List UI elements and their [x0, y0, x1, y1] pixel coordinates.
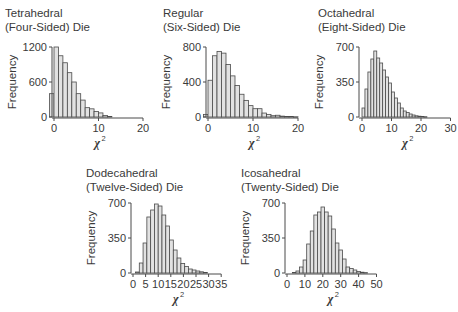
histogram-bar — [406, 113, 409, 118]
chart-title: Icosahedral(Twenty-Sided) Die — [241, 166, 339, 194]
histogram-bar — [154, 204, 158, 273]
y-axis-label: Frequency — [85, 211, 97, 266]
x-axis-label-superscript: 2 — [256, 134, 260, 143]
chart-octahedral: 0350700Frequency0102030χ2 — [313, 41, 457, 150]
histogram-bar — [158, 206, 162, 273]
histogram-bars — [204, 51, 299, 117]
chart-title: Octahedral(Eight-Sided) Die — [318, 6, 406, 34]
x-axis-label: χ — [326, 292, 334, 306]
histogram-bar — [67, 73, 71, 117]
histogram-bar — [307, 244, 311, 273]
histogram-bar — [357, 272, 361, 274]
chart-title-line: Tetrahedral — [5, 6, 90, 20]
x-axis: 0102030χ2 — [359, 118, 457, 150]
histogram-bar — [267, 114, 272, 117]
chart-tetrahedral: 06001200Frequency01020χ2 — [6, 41, 149, 150]
chart-title: Regular(Six-Sided) Die — [163, 6, 240, 34]
x-axis-label: χ — [400, 136, 408, 150]
histogram-bar — [170, 240, 174, 273]
histogram-bar — [249, 106, 254, 117]
x-axis-label-superscript: 2 — [409, 134, 413, 143]
histogram-bar — [173, 250, 177, 273]
y-tick-label: 400 — [183, 76, 201, 88]
y-tick-label: 1200 — [23, 41, 47, 53]
y-axis: 0350700Frequency — [313, 41, 359, 123]
histogram-bar — [360, 272, 364, 273]
y-tick-label: 600 — [29, 76, 47, 88]
histogram-bar — [386, 77, 389, 117]
histogram-bar — [107, 116, 111, 117]
histogram-bars — [292, 207, 367, 273]
histogram-bar — [72, 82, 76, 117]
histogram-bars — [362, 51, 427, 117]
y-axis-label: Frequency — [313, 55, 325, 110]
histogram-bar — [222, 53, 227, 117]
x-tick-label: 30 — [335, 278, 347, 290]
x-tick-label: 30 — [444, 122, 456, 134]
histogram-bar — [139, 263, 143, 273]
y-tick-label: 350 — [108, 232, 126, 244]
x-tick-label: 20 — [415, 122, 427, 134]
y-axis-label: Frequency — [160, 55, 172, 110]
histogram-bar — [196, 271, 200, 273]
histogram-bar — [364, 273, 368, 274]
histogram-bar — [294, 117, 299, 118]
histogram-bar — [314, 215, 318, 273]
histogram-bar — [339, 250, 343, 273]
y-tick-label: 350 — [262, 232, 280, 244]
histogram-bar — [303, 260, 307, 273]
x-axis-label: χ — [171, 292, 179, 306]
x-tick-label: 0 — [51, 122, 57, 134]
histogram-bar — [177, 258, 181, 273]
x-tick-label: 10 — [385, 122, 397, 134]
histogram-bar — [253, 109, 258, 117]
y-axis-label: Frequency — [6, 55, 18, 110]
chart-title-line: (Eight-Sided) Die — [318, 20, 406, 34]
histogram-bar — [217, 51, 222, 117]
histogram-bar — [54, 47, 58, 117]
y-axis-label: Frequency — [239, 211, 251, 266]
histogram-bar — [235, 86, 240, 118]
y-tick-label: 700 — [336, 41, 354, 53]
histogram-bar — [389, 83, 392, 117]
x-axis: 05101520253035χ2 — [130, 274, 227, 306]
x-axis-label: χ — [93, 136, 101, 150]
histogram-bar — [94, 111, 98, 117]
x-axis-label-superscript: 2 — [335, 290, 339, 299]
histogram-bar — [185, 267, 189, 274]
histogram-bar — [204, 272, 208, 273]
histogram-bar — [192, 270, 196, 273]
y-tick-label: 700 — [108, 197, 126, 209]
chart-title-line: (Four-Sided) Die — [5, 20, 90, 34]
histogram-bar — [328, 216, 332, 273]
histogram-bar — [240, 94, 245, 117]
histogram-bar — [151, 210, 155, 273]
y-tick-label: 0 — [195, 111, 201, 123]
histogram-bar — [143, 243, 147, 273]
histogram-bar — [412, 115, 415, 117]
chart-dodecahedral: 0350700Frequency05101520253035χ2 — [85, 197, 227, 306]
x-axis: 01020χ2 — [51, 118, 149, 150]
chart-title-line: Octahedral — [318, 6, 406, 20]
y-tick-label: 0 — [120, 267, 126, 279]
histogram-bar — [226, 65, 231, 118]
histogram-bar — [63, 63, 67, 117]
chart-title-line: (Twenty-Sided) Die — [241, 180, 339, 194]
histogram-bar — [200, 272, 204, 273]
histogram-bar — [76, 94, 80, 117]
x-tick-label: 0 — [284, 278, 290, 290]
x-tick-label: 35 — [215, 278, 227, 290]
x-axis-label-superscript: 2 — [102, 134, 106, 143]
histogram-bar — [85, 108, 89, 117]
x-tick-label: 15 — [165, 278, 177, 290]
histogram-bar — [81, 100, 85, 117]
histogram-bar — [244, 100, 249, 117]
histogram-bar — [296, 271, 300, 273]
x-axis-label-superscript: 2 — [180, 290, 184, 299]
histogram-bar — [335, 243, 339, 273]
histogram-bar — [162, 215, 166, 273]
x-tick-label: 20 — [292, 122, 304, 134]
histogram-bar — [300, 267, 304, 273]
y-axis: 0350700Frequency — [85, 197, 131, 279]
histogram-bar — [317, 212, 321, 273]
